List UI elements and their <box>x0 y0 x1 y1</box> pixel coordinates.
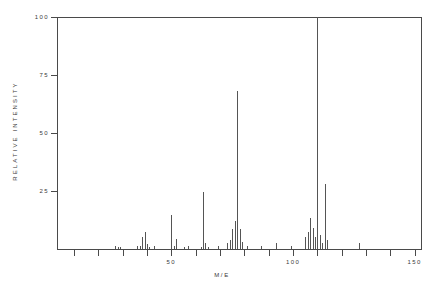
x-axis-tick <box>317 250 318 256</box>
x-axis-tick <box>171 250 172 256</box>
x-axis-tick <box>390 250 391 256</box>
spectrum-peak <box>227 243 228 249</box>
y-axis-tick-label-text: 25 <box>3 188 49 195</box>
x-axis-tick-label: 150 <box>408 259 422 265</box>
spectrum-peak <box>201 247 202 249</box>
y-axis-tick-label: 75 <box>0 72 49 79</box>
spectrum-peak <box>205 243 206 249</box>
x-axis-tick <box>342 250 343 256</box>
spectrum-peak <box>313 228 314 249</box>
spectrum-peak <box>247 246 248 249</box>
spectrum-peak <box>235 221 236 249</box>
spectrum-peak <box>203 192 204 249</box>
y-axis-tick-label-text: 50 <box>3 130 49 137</box>
x-axis-tick <box>269 250 270 256</box>
x-axis-tick <box>220 250 221 256</box>
spectrum-peak <box>291 246 292 249</box>
x-axis-tick <box>293 250 294 256</box>
x-axis-tick <box>196 250 197 256</box>
x-axis-tick <box>366 250 367 256</box>
spectrum-peak <box>208 247 209 249</box>
spectrum-peak <box>176 239 177 249</box>
spectrum-peak <box>188 246 189 249</box>
x-axis-title: M/E <box>0 272 444 278</box>
y-axis-tick-label: 100 <box>0 14 49 21</box>
spectrum-peak <box>137 246 138 249</box>
x-axis-tick <box>74 250 75 256</box>
spectrum-peak <box>242 242 243 249</box>
spectrum-peak <box>142 237 143 249</box>
spectrum-peak <box>359 243 360 249</box>
spectrum-peak <box>118 247 119 249</box>
x-axis-tick <box>98 250 99 256</box>
spectrum-peak <box>145 232 146 249</box>
mass-spectrum-figure: RELATIVE INTENSITY M/E 255075100 5010015… <box>0 0 444 290</box>
x-axis-tick <box>415 250 416 256</box>
y-axis-tick-label: 50 <box>0 130 49 137</box>
spectrum-peak <box>174 246 175 249</box>
y-axis-tick-label-text: 75 <box>3 72 49 79</box>
spectrum-peak <box>276 243 277 249</box>
spectrum-peak <box>327 240 328 249</box>
spectrum-peak <box>320 235 321 249</box>
spectrum-peak <box>315 237 316 249</box>
x-axis-tick <box>123 250 124 256</box>
spectrum-peak <box>149 247 150 249</box>
spectrum-peak <box>184 247 185 249</box>
spectrum-peak <box>218 246 219 249</box>
x-axis-tick-label: 50 <box>167 259 176 265</box>
x-axis-tick-label: 100 <box>286 259 300 265</box>
spectrum-peak <box>308 232 309 249</box>
spectrum-peak <box>115 246 116 249</box>
spectrum-peak <box>230 240 231 249</box>
spectrum-peak <box>317 17 318 249</box>
spectrum-peak <box>232 229 233 249</box>
spectrum-peak <box>322 243 323 249</box>
spectrum-peak <box>305 237 306 249</box>
spectrum-peak <box>147 244 148 249</box>
x-axis-tick <box>244 250 245 256</box>
spectrum-peak <box>325 184 326 249</box>
spectrum-peak <box>154 246 155 249</box>
spectrum-peak <box>237 91 238 249</box>
y-axis-tick-label-text: 100 <box>3 14 49 21</box>
spectrum-peak <box>261 246 262 249</box>
spectrum-peaks <box>57 17 422 249</box>
x-axis-tick <box>147 250 148 256</box>
spectrum-peak <box>140 246 141 249</box>
spectrum-peak <box>120 247 121 249</box>
spectrum-peak <box>171 215 172 249</box>
spectrum-peak <box>240 229 241 249</box>
spectrum-peak <box>310 218 311 249</box>
y-axis-tick-label: 25 <box>0 188 49 195</box>
